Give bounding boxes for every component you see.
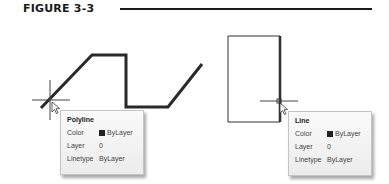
tooltip-row-layer: Layer 0	[295, 143, 371, 153]
color-swatch-icon	[99, 130, 105, 136]
tooltip-title: Polyline	[67, 116, 94, 123]
tooltip-row-linetype: Linetype ByLayer	[295, 156, 371, 166]
tooltip-row-layer: Layer 0	[67, 142, 143, 152]
tooltip-row-color: Color ByLayer	[295, 130, 371, 140]
tooltip-key: Linetype	[67, 155, 93, 162]
tooltip-value: 0	[99, 142, 103, 149]
tooltip-key: Color	[67, 129, 84, 136]
pointer-arrow-icon	[52, 102, 60, 114]
tooltip-line: Line Color ByLayer Layer 0 Linetype ByLa…	[288, 111, 372, 176]
tooltip-key: Layer	[295, 143, 313, 150]
tooltip-key: Color	[295, 130, 312, 137]
tooltip-value: ByLayer	[335, 130, 361, 137]
crosshair-cursor-right	[260, 40, 298, 120]
tooltip-value: ByLayer	[327, 156, 353, 163]
tooltip-key: Linetype	[295, 156, 321, 163]
tooltip-polyline: Polyline Color ByLayer Layer 0 Linetype …	[60, 110, 144, 175]
line-rectangle	[228, 36, 280, 122]
tooltip-value: ByLayer	[107, 129, 133, 136]
tooltip-title: Line	[295, 117, 309, 124]
tooltip-key: Layer	[67, 142, 85, 149]
tooltip-row-linetype: Linetype ByLayer	[67, 155, 143, 165]
color-swatch-icon	[327, 131, 333, 137]
tooltip-value: ByLayer	[99, 155, 125, 162]
tooltip-row-color: Color ByLayer	[67, 129, 143, 139]
tooltip-value: 0	[327, 143, 331, 150]
